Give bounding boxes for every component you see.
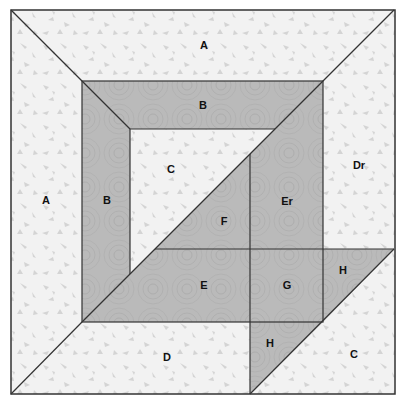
label-B-left: B bbox=[103, 194, 111, 206]
label-A-top: A bbox=[200, 39, 208, 51]
label-B-top: B bbox=[199, 99, 207, 111]
quilt-block-diagram: AABBCDrErFEGHHDC bbox=[0, 0, 405, 403]
label-C-center: C bbox=[167, 163, 175, 175]
label-D: D bbox=[163, 351, 171, 363]
label-G: G bbox=[283, 279, 292, 291]
label-A-left: A bbox=[42, 194, 50, 206]
label-C-corner: C bbox=[350, 348, 358, 360]
label-F: F bbox=[221, 215, 228, 227]
label-H-right: H bbox=[339, 264, 347, 276]
label-H-bottom: H bbox=[266, 337, 274, 349]
label-E: E bbox=[200, 279, 207, 291]
label-Er: Er bbox=[281, 195, 293, 207]
label-Dr: Dr bbox=[353, 159, 366, 171]
